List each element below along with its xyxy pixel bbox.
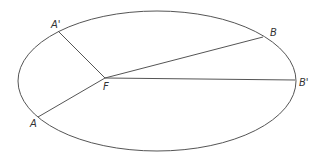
ellipse-diagram: A' F A B B' (0, 0, 320, 159)
segment-f-b-prime (105, 78, 295, 80)
segment-f-b (105, 37, 263, 78)
label-b-prime: B' (299, 77, 309, 88)
label-focus: F (103, 81, 109, 92)
label-a-prime: A' (50, 19, 61, 30)
segment-f-a-prime (58, 31, 105, 78)
segment-f-a (38, 78, 105, 117)
label-a: A (29, 118, 37, 129)
label-b: B (270, 27, 277, 38)
